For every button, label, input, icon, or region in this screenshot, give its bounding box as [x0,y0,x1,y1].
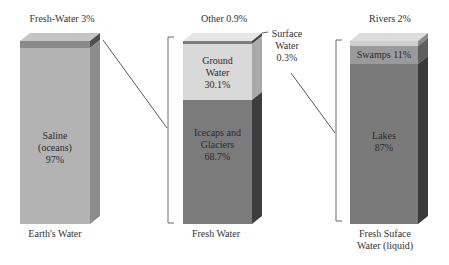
segment-rivers [350,41,418,46]
segment-fresh-water [20,41,90,48]
label-surface-water: Surface Water 0.3% [267,28,307,64]
label-rivers: Rivers 2% [350,13,430,25]
label-ground-water: Ground Water 30.1% [183,55,252,91]
label-lakes-value: 87% [350,142,418,154]
label-ground-line2: Water [183,67,252,79]
label-fresh-water: Fresh Water [176,228,256,240]
label-surface-line2: Water [267,40,307,52]
label-earths-water: Earth's Water [12,228,98,240]
label-icecaps-value: 68.7% [183,151,252,163]
label-lakes-line1: Lakes [350,130,418,142]
segment-other [183,41,252,44]
label-saline: Saline (oceans) 97% [20,130,90,166]
bar-earths-water [20,33,100,224]
label-ground-value: 30.1% [183,79,252,91]
bar-fresh-surface-water [350,33,428,224]
label-icecaps-line2: Glaciers [183,139,252,151]
label-other: Other 0.9% [184,13,264,25]
label-lakes: Lakes 87% [350,130,418,154]
connector-line-1 [103,40,167,128]
label-surface-value: 0.3% [267,52,307,64]
label-ground-line1: Ground [183,55,252,67]
label-saline-value: 97% [20,154,90,166]
label-saline-line2: (oceans) [20,142,90,154]
label-icecaps-line1: Icecaps and [183,127,252,139]
connector-line-2 [291,73,335,133]
label-fresh-surface-water: Fresh Suface Water (liquid) [343,228,427,252]
label-fresh-surface-line1: Fresh Suface [343,228,427,240]
label-swamps: Swamps 11% [350,49,418,61]
label-fresh-water-3: Fresh-Water 3% [12,13,112,25]
bracket-surface-water [336,40,342,221]
label-icecaps: Icecaps and Glaciers 68.7% [183,127,252,163]
bracket-fresh-water [168,37,174,223]
label-saline-line1: Saline [20,130,90,142]
label-surface-line1: Surface [267,28,307,40]
label-fresh-surface-line2: Water (liquid) [343,240,427,252]
